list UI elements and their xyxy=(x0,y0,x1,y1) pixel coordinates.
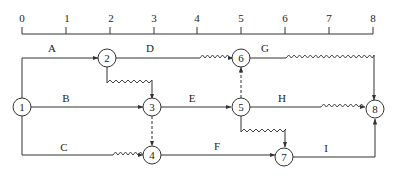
node-5: 5 xyxy=(232,98,250,116)
node-2: 2 xyxy=(98,49,116,67)
node-1: 1 xyxy=(13,98,31,116)
activity-b: B xyxy=(31,92,143,107)
node-label-2: 2 xyxy=(104,52,110,64)
axis-ticks xyxy=(22,27,373,34)
dummy-5-7 xyxy=(241,116,286,147)
activity-i: I xyxy=(293,119,375,157)
activity-label-a: A xyxy=(48,42,56,54)
node-8: 8 xyxy=(366,100,384,118)
node-label-3: 3 xyxy=(149,101,155,113)
network-diagram: 0 1 2 3 4 5 6 7 8 A B C D E xyxy=(0,0,395,176)
tick-label-5: 5 xyxy=(238,12,244,24)
dummy-2-3 xyxy=(107,67,152,99)
tick-label-8: 8 xyxy=(370,12,376,24)
activity-label-g: G xyxy=(261,42,269,54)
node-7: 7 xyxy=(275,148,293,166)
node-label-7: 7 xyxy=(281,151,287,163)
tick-label-6: 6 xyxy=(282,12,288,24)
activity-label-b: B xyxy=(62,92,69,104)
activity-label-d: D xyxy=(146,42,154,54)
tick-label-1: 1 xyxy=(64,12,70,24)
activity-h: H xyxy=(250,92,365,107)
activity-e: E xyxy=(161,92,231,107)
activity-a: A xyxy=(22,42,98,98)
node-6: 6 xyxy=(232,49,250,67)
activity-label-e: E xyxy=(189,92,196,104)
node-4: 4 xyxy=(143,146,161,164)
node-label-5: 5 xyxy=(238,101,244,113)
tick-label-2: 2 xyxy=(108,12,114,24)
node-label-1: 1 xyxy=(19,101,25,113)
activity-label-h: H xyxy=(278,92,286,104)
node-label-4: 4 xyxy=(149,149,155,161)
activity-label-i: I xyxy=(324,142,328,154)
activity-f: F xyxy=(161,140,275,155)
node-3: 3 xyxy=(143,98,161,116)
activity-label-c: C xyxy=(60,141,67,153)
activity-g: G xyxy=(250,42,374,100)
tick-label-4: 4 xyxy=(194,12,200,24)
timeline-axis: 0 1 2 3 4 5 6 7 8 xyxy=(19,12,376,34)
activity-d: D xyxy=(116,42,233,58)
tick-label-0: 0 xyxy=(19,12,25,24)
node-label-6: 6 xyxy=(238,52,244,64)
node-label-8: 8 xyxy=(372,103,378,115)
tick-label-3: 3 xyxy=(151,12,157,24)
activity-c: C xyxy=(22,116,143,155)
activity-label-f: F xyxy=(214,140,220,152)
tick-label-7: 7 xyxy=(326,12,332,24)
